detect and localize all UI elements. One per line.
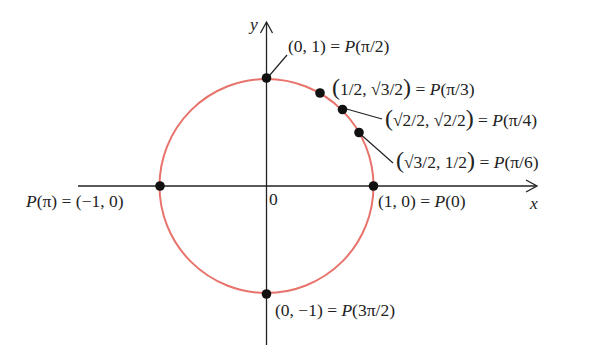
leader-line-pi6	[358, 132, 393, 163]
label-pi6: (√3/2, 1/2) = P(π/6)	[396, 147, 539, 173]
x-axis-label: x	[529, 193, 538, 213]
origin-label: 0	[269, 189, 278, 209]
point-p0	[369, 181, 379, 191]
y-axis-label: y	[248, 14, 258, 34]
x-axis	[78, 180, 537, 192]
point-3pi2	[262, 289, 272, 299]
point-pi	[155, 181, 165, 191]
label-pi2: (0, 1) = P(π/2)	[288, 36, 390, 56]
label-pi4: (√2/2, √2/2) = P(π/4)	[385, 105, 537, 131]
point-pi3	[315, 88, 325, 98]
label-pi3: (1/2, √3/2) = P(π/3)	[332, 74, 475, 100]
point-pi2	[262, 73, 272, 83]
point-pi6	[354, 128, 364, 138]
unit-circle-diagram: x y 0 (0, 1) = P(π/2) (1/2, √3/2) = P(π/…	[0, 0, 613, 356]
label-pi: P(π) = (−1, 0)	[25, 191, 124, 211]
label-p0: (1, 0) = P(0)	[378, 191, 466, 211]
label-3pi2: (0, −1) = P(3π/2)	[275, 300, 395, 320]
point-pi4	[338, 105, 348, 115]
